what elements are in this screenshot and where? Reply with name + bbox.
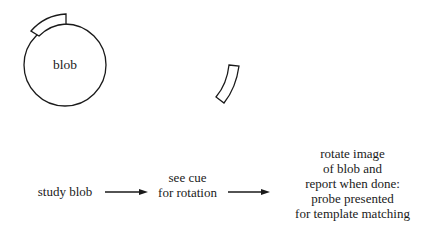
arrow-1-icon [105,189,148,195]
step-3-line-1: rotate image [275,146,430,161]
blob-tab-shape [31,14,66,36]
step-2-line-2: for rotation [150,185,225,200]
rotation-cue-shape [216,65,239,103]
step-2-line-1: see cue [150,170,225,185]
step-3-line-4: probe presented [275,191,430,206]
step-rotate-image: rotate image of blob and report when don… [275,146,430,221]
step-see-cue: see cue for rotation [150,170,225,200]
step-3-line-5: for template matching [275,206,430,221]
blob-label: blob [40,57,90,72]
step-study-blob: study blob [30,184,100,199]
step-3-line-3: report when done: [275,176,430,191]
step-3-line-2: of blob and [275,161,430,176]
step-1-line-1: study blob [30,184,100,199]
arrow-2-icon [228,189,270,195]
